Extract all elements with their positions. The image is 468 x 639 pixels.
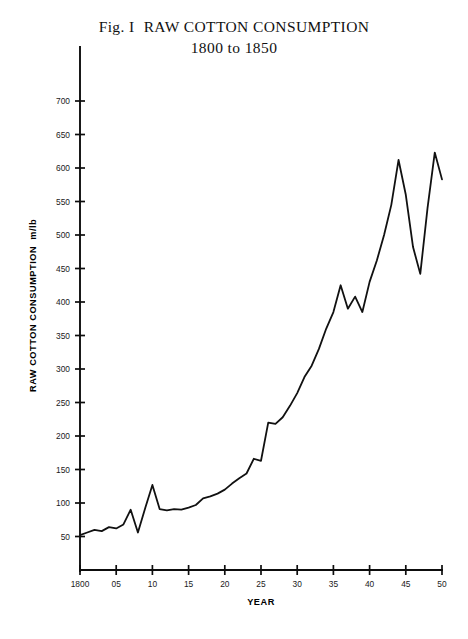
y-tick-label: 250: [56, 398, 70, 408]
y-tick-label: 300: [56, 364, 70, 374]
x-axis: 180005101520253035404550: [71, 565, 447, 589]
x-tick-label: 20: [220, 579, 230, 589]
x-tick-label: 10: [148, 579, 158, 589]
x-tick-label: 35: [329, 579, 339, 589]
y-axis-title-main: RAW COTTON CONSUMPTION: [28, 246, 38, 392]
y-tick-label: 400: [56, 297, 70, 307]
y-tick-label: 550: [56, 197, 70, 207]
x-axis-title: YEAR: [247, 597, 275, 607]
y-tick-label: 650: [56, 130, 70, 140]
x-axis-ticks: 180005101520253035404550: [71, 565, 447, 589]
y-axis-units-label: m/lb: [28, 219, 38, 240]
series-raw-cotton-consumption: [80, 153, 442, 536]
x-tick-label: 45: [401, 579, 411, 589]
x-tick-label: 30: [293, 579, 303, 589]
figure-raw-cotton-consumption: Fig. IRAW COTTON CONSUMPTION 1800 to 185…: [0, 0, 468, 639]
y-tick-label: 700: [56, 96, 70, 106]
x-tick-label: 50: [437, 579, 447, 589]
y-tick-label: 500: [56, 230, 70, 240]
y-tick-label: 50: [61, 532, 71, 542]
y-axis-title: RAW COTTON CONSUMPTIONm/lb: [28, 219, 38, 392]
y-tick-label: 600: [56, 163, 70, 173]
x-tick-label: 15: [184, 579, 194, 589]
x-tick-label: 05: [112, 579, 122, 589]
series-group: [80, 153, 442, 536]
y-tick-label: 150: [56, 465, 70, 475]
y-tick-label: 450: [56, 264, 70, 274]
x-tick-label: 1800: [71, 579, 90, 589]
y-tick-label: 200: [56, 431, 70, 441]
x-tick-label: 25: [256, 579, 266, 589]
line-chart-canvas: 5010015020025030035040045050055060065070…: [0, 0, 468, 639]
x-tick-label: 40: [365, 579, 375, 589]
y-tick-label: 350: [56, 331, 70, 341]
y-tick-label: 100: [56, 498, 70, 508]
y-axis: 5010015020025030035040045050055060065070…: [56, 47, 85, 571]
